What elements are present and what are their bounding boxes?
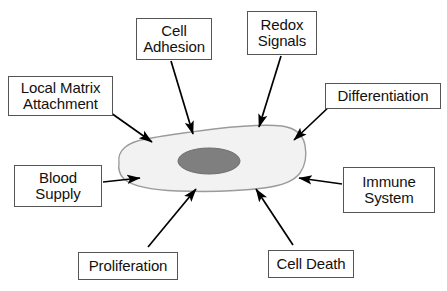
label-proliferation[interactable]: Proliferation bbox=[78, 252, 178, 280]
label-differentiation[interactable]: Differentiation bbox=[325, 83, 441, 109]
nucleus-shape bbox=[178, 148, 240, 174]
arrow-differentiation bbox=[294, 104, 332, 140]
label-line-2: Signals bbox=[258, 33, 307, 49]
label-line-1: Redox bbox=[261, 17, 304, 33]
label-line-1: Immune bbox=[362, 174, 416, 190]
label-line-2: Attachment bbox=[23, 96, 98, 112]
label-line-1: Local Matrix bbox=[21, 80, 101, 96]
label-local-matrix-attachment[interactable]: Local Matrix Attachment bbox=[8, 76, 113, 116]
label-line-1: Cell Death bbox=[276, 256, 345, 272]
arrow-redox-signals bbox=[259, 56, 281, 127]
label-line-1: Differentiation bbox=[338, 88, 429, 104]
label-line-1: Blood bbox=[39, 170, 77, 186]
label-line-2: Adhesion bbox=[143, 39, 205, 55]
diagram-graphics bbox=[0, 0, 447, 291]
label-line-1: Cell bbox=[161, 23, 186, 39]
arrow-proliferation bbox=[148, 189, 196, 247]
label-cell-death[interactable]: Cell Death bbox=[268, 250, 354, 278]
label-cell-adhesion[interactable]: Cell Adhesion bbox=[136, 18, 212, 60]
arrow-cell-adhesion bbox=[171, 61, 193, 134]
diagram-canvas: Local Matrix Attachment Cell Adhesion Re… bbox=[0, 0, 447, 291]
label-redox-signals[interactable]: Redox Signals bbox=[247, 11, 317, 55]
arrow-immune-system bbox=[299, 178, 342, 184]
arrow-cell-death bbox=[256, 189, 293, 245]
label-line-2: System bbox=[364, 190, 413, 206]
label-immune-system[interactable]: Immune System bbox=[343, 167, 435, 213]
label-blood-supply[interactable]: Blood Supply bbox=[14, 165, 102, 207]
label-line-1: Proliferation bbox=[89, 258, 168, 274]
label-line-2: Supply bbox=[35, 186, 80, 202]
